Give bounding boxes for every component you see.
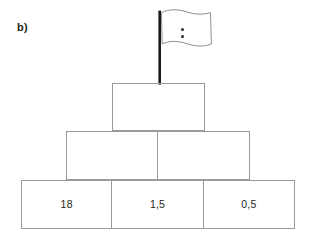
pyramid-cell-top-1[interactable] bbox=[112, 83, 205, 131]
pyramid-cell-bottom-3[interactable]: 0,5 bbox=[204, 180, 295, 229]
pyramid-cell-middle-2[interactable] bbox=[158, 131, 250, 180]
flag-graphic bbox=[155, 8, 217, 88]
flag-dot-lower bbox=[181, 35, 184, 38]
pyramid-cell-middle-1[interactable] bbox=[66, 131, 158, 180]
flag-pole bbox=[158, 11, 161, 85]
flag-dot-upper bbox=[181, 28, 184, 31]
part-label: b) bbox=[17, 21, 28, 34]
pyramid-row-top bbox=[112, 83, 205, 131]
pyramid-row-bottom: 18 1,5 0,5 bbox=[21, 180, 295, 229]
pyramid-cell-bottom-1[interactable]: 18 bbox=[21, 180, 112, 229]
pyramid-row-middle bbox=[66, 131, 250, 180]
pyramid-cell-bottom-2[interactable]: 1,5 bbox=[112, 180, 203, 229]
figure-canvas: b) 18 1,5 0,5 bbox=[0, 0, 312, 238]
flag-banner bbox=[162, 10, 212, 46]
flag-icon bbox=[155, 8, 217, 88]
